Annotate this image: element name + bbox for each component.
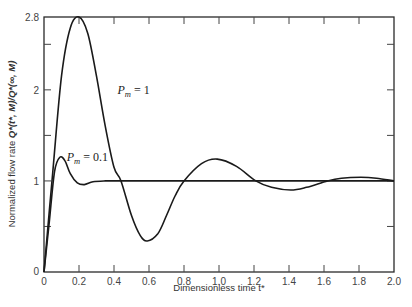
x-tick-label: 1.8 <box>352 276 366 287</box>
y-axis-label-formula: Q*(t*, M)/Q*(∞, M) <box>6 61 17 138</box>
series-label-pm-0-1: Pm = 0.1 <box>66 150 108 166</box>
x-tick-label: 1.6 <box>317 276 331 287</box>
data-series <box>44 17 394 272</box>
y-axis-label-prefix: Normalized flow rate <box>6 138 17 227</box>
series-label-pm-1-value: = 1 <box>131 83 150 97</box>
curve-pm-0-1 <box>44 157 394 272</box>
x-axis-label: Dimensionless time t* <box>173 282 265 293</box>
y-tick-label: 2.8 <box>25 12 39 23</box>
x-tick-label: 2.0 <box>387 276 401 287</box>
series-label-pm-0-1-value: = 0.1 <box>80 150 108 164</box>
x-tick-label: 0.6 <box>142 276 156 287</box>
curve-pm-1 <box>44 17 394 272</box>
plot-frame <box>44 17 394 272</box>
series-label-pm-1: Pm = 1 <box>117 83 150 99</box>
x-tick-label: 1.4 <box>282 276 296 287</box>
x-tick-label: 0.2 <box>72 276 86 287</box>
y-tick-label: 0 <box>33 266 39 277</box>
plot-border <box>44 17 394 272</box>
x-tick-label: 0 <box>41 276 47 287</box>
y-tick-label: 1 <box>33 176 39 187</box>
y-tick-label: 2 <box>33 85 39 96</box>
axis-ticks <box>44 17 394 272</box>
x-tick-label: 0.4 <box>107 276 121 287</box>
line-chart: 00.20.40.60.81.01.21.41.61.82.00122.8 Di… <box>0 0 412 307</box>
y-axis-label: Normalized flow rate Q*(t*, M)/Q*(∞, M) <box>6 61 17 228</box>
